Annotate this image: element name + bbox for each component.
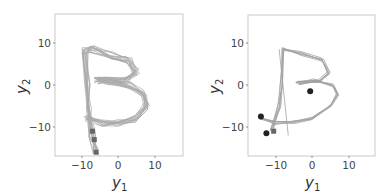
figure: 10 0 −10 −10 0 10 y1 y2 10 0 −10 <box>0 0 391 196</box>
right-ytick-0: 0 <box>237 79 244 91</box>
square-marker <box>94 150 99 155</box>
right-xtick-0: 0 <box>309 159 316 171</box>
right-x-label: y1 <box>304 174 320 193</box>
right-ytick-neg10: −10 <box>222 121 244 133</box>
square-marker <box>92 137 97 142</box>
right-xtick-neg10: −10 <box>265 159 287 171</box>
left-ytick-0: 0 <box>44 79 51 91</box>
left-xtick-10: 10 <box>148 159 161 171</box>
left-x-label: y1 <box>111 174 127 193</box>
right-y-ticks: 10 0 −10 <box>222 37 248 133</box>
left-y-ticks: 10 0 −10 <box>29 37 55 133</box>
right-y-label: y2 <box>206 79 225 95</box>
left-ytick-neg10: −10 <box>29 121 51 133</box>
right-ytick-10: 10 <box>231 37 244 49</box>
square-marker <box>90 129 95 134</box>
right-x-ticks: −10 0 10 <box>265 156 356 171</box>
circle-marker <box>258 114 264 120</box>
left-ytick-10: 10 <box>38 37 51 49</box>
circle-marker <box>263 130 269 136</box>
left-xtick-neg10: −10 <box>71 159 93 171</box>
right-plot: 10 0 −10 −10 0 10 y1 y2 <box>206 15 375 193</box>
left-plot: 10 0 −10 −10 0 10 y1 y2 <box>13 14 183 193</box>
left-xtick-0: 0 <box>115 159 122 171</box>
right-xtick-10: 10 <box>342 159 355 171</box>
square-marker <box>271 129 276 134</box>
circle-marker <box>307 88 313 94</box>
left-y-label: y2 <box>13 79 32 95</box>
left-x-ticks: −10 0 10 <box>71 156 162 171</box>
